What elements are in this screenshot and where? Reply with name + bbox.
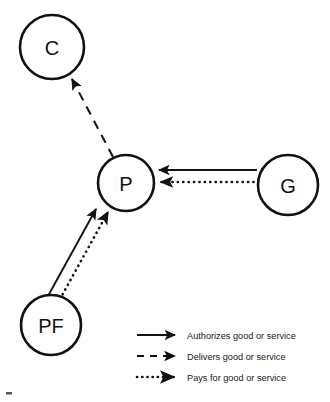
legend-label-pays: Pays for good or service	[187, 373, 286, 383]
node-consumer[interactable]: C	[20, 15, 84, 79]
edge-provider-to-consumer-delivers	[72, 79, 113, 157]
legend-item-authorizes: Authorizes good or service	[137, 331, 296, 341]
government-label: G	[280, 175, 296, 197]
edge-payer-to-provider-authorizes	[48, 209, 96, 296]
edge-payer-to-provider-pays	[60, 212, 108, 299]
payer-financier-label: PF	[38, 315, 64, 337]
legend-label-authorizes: Authorizes good or service	[187, 331, 296, 341]
legend-item-pays: Pays for good or service	[137, 373, 286, 383]
legend-item-delivers: Delivers good or service	[137, 352, 286, 362]
legend-label-delivers: Delivers good or service	[187, 352, 286, 362]
provider-label: P	[119, 173, 132, 195]
node-government[interactable]: G	[258, 155, 318, 215]
node-provider[interactable]: P	[98, 155, 154, 211]
flow-diagram: C P G PF Authorizes good or service Deli…	[0, 0, 330, 402]
legend: Authorizes good or service Delivers good…	[137, 331, 296, 383]
consumer-label: C	[45, 37, 59, 59]
scan-artifact	[6, 392, 12, 395]
node-payer-financier[interactable]: PF	[21, 295, 81, 355]
